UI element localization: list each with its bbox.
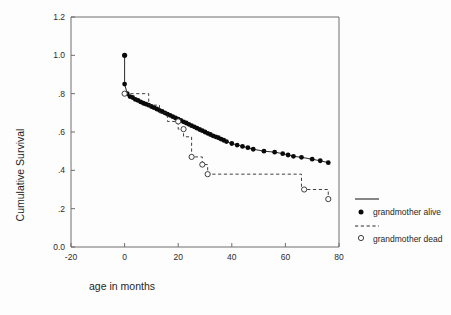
data-point-dead: [181, 127, 186, 132]
legend-marker-alive: [359, 210, 364, 215]
data-point-dead: [205, 172, 210, 177]
data-point-alive: [122, 82, 127, 87]
data-point-dead: [189, 154, 194, 159]
data-point-alive: [318, 158, 323, 163]
legend-label-alive: grandmother alive: [373, 207, 441, 217]
survival-chart: 0.0.2.4.6.81.01.2-20020406080 age in mon…: [0, 0, 451, 315]
y-tick-label: 1.0: [53, 50, 65, 60]
legend-label-dead: grandmother dead: [373, 234, 443, 244]
data-point-dead: [122, 91, 127, 96]
data-point-alive: [122, 53, 127, 58]
data-point-alive: [280, 151, 285, 156]
chart-root: 0.0.2.4.6.81.01.2-20020406080 age in mon…: [0, 0, 451, 315]
data-point-alive: [310, 157, 315, 162]
axis-titles: age in monthsCumulative Survival: [14, 129, 155, 292]
y-tick-label: 0.0: [53, 242, 65, 252]
data-point-alive: [229, 141, 234, 146]
data-point-alive: [286, 153, 291, 158]
data-series: [122, 53, 331, 202]
tick-labels: 0.0.2.4.6.81.01.2-20020406080: [53, 12, 344, 262]
data-point-alive: [326, 160, 331, 165]
data-point-alive: [235, 143, 240, 148]
x-tick-label: 20: [173, 252, 183, 262]
data-point-alive: [272, 150, 277, 155]
data-point-alive: [224, 139, 229, 144]
data-point-alive: [251, 147, 256, 152]
data-point-alive: [240, 144, 245, 149]
y-tick-label: 1.2: [53, 12, 65, 22]
data-point-alive: [262, 149, 267, 154]
y-tick-label: .2: [58, 204, 65, 214]
data-point-alive: [299, 155, 304, 160]
x-tick-label: 80: [334, 252, 344, 262]
data-point-alive: [245, 145, 250, 150]
x-tick-label: 60: [281, 252, 291, 262]
y-tick-label: .4: [58, 165, 65, 175]
y-axis-title: Cumulative Survival: [14, 129, 26, 222]
x-tick-label: 0: [122, 252, 127, 262]
y-tick-label: .8: [58, 89, 65, 99]
y-tick-label: .6: [58, 127, 65, 137]
legend-marker-dead: [358, 235, 363, 240]
x-tick-label: 40: [227, 252, 237, 262]
data-point-dead: [176, 119, 181, 124]
data-point-dead: [200, 162, 205, 167]
x-axis-title: age in months: [89, 280, 155, 292]
data-point-dead: [326, 196, 331, 201]
data-point-alive: [291, 154, 296, 159]
x-tick-label: -20: [65, 252, 78, 262]
data-point-dead: [302, 187, 307, 192]
chart-legend: grandmother alivegrandmother dead: [355, 199, 443, 244]
